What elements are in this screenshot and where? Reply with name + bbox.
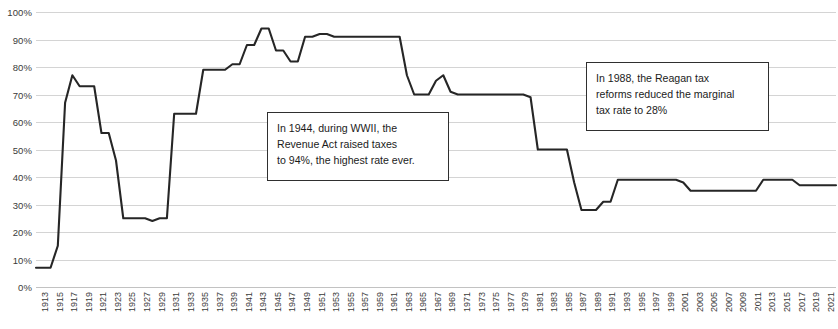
y-tick-label: 80% (13, 62, 32, 73)
x-tick-label: 1995 (637, 292, 647, 312)
annotation-line: tax rate to 28% (596, 102, 759, 118)
x-tick-label: 1947 (287, 292, 297, 312)
y-tick-label: 30% (13, 199, 32, 210)
annotation-1988: In 1988, the Reagan taxreforms reduced t… (586, 62, 769, 131)
x-tick-label: 2011 (753, 292, 763, 311)
x-tick-label: 1913 (40, 292, 50, 312)
x-tick-label: 1999 (666, 292, 676, 312)
y-tick-label: 100% (7, 7, 32, 18)
x-tick-label: 1953 (331, 292, 341, 312)
y-tick-label: 40% (13, 172, 32, 183)
x-tick-label: 1939 (229, 292, 239, 312)
y-tick-label: 60% (13, 117, 32, 128)
x-tick-label: 1919 (84, 292, 94, 312)
x-tick-label: 1949 (302, 292, 312, 312)
x-tick-label: 2013 (767, 292, 777, 312)
x-tick-label: 1985 (564, 292, 574, 312)
x-tick-label: 2003 (695, 292, 705, 312)
x-tick-label: 2019 (811, 292, 821, 312)
x-tick-label: 2021 (826, 292, 836, 312)
x-tick-label: 1993 (622, 292, 632, 312)
x-tick-label: 1937 (215, 292, 225, 312)
x-tick-label: 1987 (578, 292, 588, 312)
x-tick-label: 1917 (69, 292, 79, 312)
y-tick-label: 70% (13, 89, 32, 100)
annotation-1944: In 1944, during WWII, theRevenue Act rai… (267, 112, 449, 181)
x-tick-label: 1925 (127, 292, 137, 312)
x-tick-label: 1945 (273, 292, 283, 312)
x-tick-label: 1921 (98, 292, 108, 312)
x-tick-label: 1965 (418, 292, 428, 312)
y-tick-label: 90% (13, 34, 32, 45)
x-tick-label: 1927 (142, 292, 152, 312)
x-tick-label: 1959 (375, 292, 385, 312)
x-tick-label: 1963 (404, 292, 414, 312)
x-tick-label: 1957 (360, 292, 370, 312)
x-tick-label: 1955 (346, 292, 356, 312)
x-tick-label: 1975 (491, 292, 501, 312)
x-tick-label: 1979 (520, 292, 530, 312)
x-tick-label: 1997 (651, 292, 661, 312)
annotation-line: Revenue Act raised taxes (277, 136, 439, 152)
x-tick-label: 1973 (477, 292, 487, 312)
y-tick-label: 10% (13, 254, 32, 265)
annotation-line: In 1988, the Reagan tax (596, 70, 759, 86)
x-tick-label: 1983 (549, 292, 559, 312)
x-tick-label: 1915 (55, 292, 65, 312)
x-tick-label: 1931 (171, 292, 181, 312)
annotation-line: In 1944, during WWII, the (277, 120, 439, 136)
x-tick-label: 1961 (389, 292, 399, 312)
x-axis: 1913191519171919192119231925192719291931… (36, 290, 836, 329)
x-tick-label: 1989 (593, 292, 603, 312)
y-tick-label: 20% (13, 227, 32, 238)
x-tick-label: 2009 (738, 292, 748, 312)
y-axis: 0%10%20%30%40%50%60%70%80%90%100% (0, 0, 36, 329)
x-tick-label: 1977 (506, 292, 516, 312)
x-tick-label: 2001 (680, 292, 690, 312)
x-tick-label: 1971 (462, 292, 472, 312)
x-tick-label: 1981 (535, 292, 545, 312)
x-tick-label: 1943 (258, 292, 268, 312)
x-tick-label: 2005 (709, 292, 719, 312)
annotation-line: to 94%, the highest rate ever. (277, 152, 439, 168)
x-tick-label: 2017 (797, 292, 807, 312)
x-tick-label: 1991 (607, 292, 617, 312)
x-tick-label: 1929 (157, 292, 167, 312)
x-tick-label: 1951 (317, 292, 327, 312)
x-tick-label: 1941 (244, 292, 254, 312)
x-tick-label: 2015 (782, 292, 792, 312)
x-tick-label: 1933 (186, 292, 196, 312)
x-tick-label: 1923 (113, 292, 123, 312)
x-tick-label: 1935 (200, 292, 210, 312)
y-tick-label: 50% (13, 144, 32, 155)
x-tick-label: 1969 (447, 292, 457, 312)
y-tick-label: 0% (18, 282, 32, 293)
x-tick-label: 2007 (724, 292, 734, 312)
annotation-line: reforms reduced the marginal (596, 86, 759, 102)
tax-rate-line-chart: 0%10%20%30%40%50%60%70%80%90%100% 191319… (0, 0, 838, 329)
x-tick-label: 1967 (433, 292, 443, 312)
